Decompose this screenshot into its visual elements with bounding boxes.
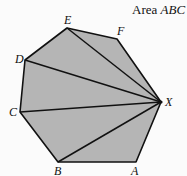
label-x: X <box>164 95 173 109</box>
hexagon-diagram: Area ABC E F X A B C D <box>0 0 187 176</box>
label-d: D <box>14 52 24 66</box>
label-b: B <box>54 164 62 176</box>
diagram-canvas: Area ABC E F X A B C D <box>0 0 187 176</box>
caption: Area ABC <box>132 2 185 17</box>
point-x <box>159 100 162 103</box>
label-f: F <box>116 24 125 38</box>
label-a: A <box>130 164 139 176</box>
label-e: E <box>63 13 72 27</box>
label-c: C <box>9 105 18 119</box>
